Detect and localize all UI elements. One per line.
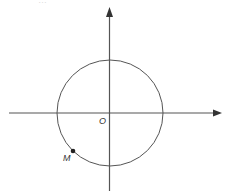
y-axis-arrow-icon xyxy=(106,7,113,17)
origin-label: O xyxy=(99,117,106,126)
unit-circle-diagram: … O M xyxy=(0,0,227,191)
point-m xyxy=(71,149,76,154)
diagram-canvas xyxy=(0,0,227,191)
point-m-label: M xyxy=(63,154,71,163)
x-axis-arrow-icon xyxy=(213,110,222,117)
cropped-caption: … xyxy=(38,0,47,5)
